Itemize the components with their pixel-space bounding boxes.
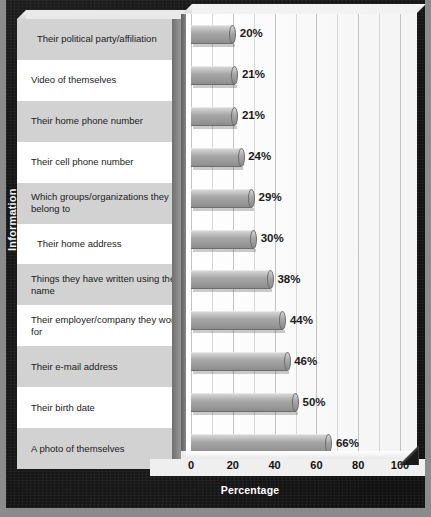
bar-end-cap (325, 434, 332, 451)
bar-chart-figure: Information Their political party/affili… (0, 0, 431, 517)
bar-end-cap (284, 352, 291, 371)
bar-shadow (193, 126, 237, 129)
bar (191, 352, 287, 371)
bar (191, 311, 283, 330)
category-label-text: Their home phone number (31, 115, 143, 127)
x-tick-label: 60 (310, 459, 322, 471)
x-axis-tick-labels: 020406080100 (150, 459, 431, 476)
bar-value-label: 21% (242, 109, 265, 121)
category-label-row: Their e-mail address (17, 346, 189, 387)
bar-end-cap (238, 148, 245, 167)
bar-end-cap (250, 230, 257, 249)
plot-top-face (192, 4, 417, 14)
bar-shadow (193, 249, 256, 252)
category-label-panel: Their political party/affiliationVideo o… (17, 19, 190, 469)
category-label-text: Their cell phone number (31, 156, 133, 168)
category-label-text: Which groups/organizations they belong t… (31, 191, 183, 215)
bar-shadow (193, 44, 235, 47)
category-label-row: Their home phone number (17, 101, 189, 142)
category-label-row: Their political party/affiliation (17, 19, 189, 60)
category-label-row: Which groups/organizations they belong t… (17, 183, 189, 224)
bar-end-cap (231, 107, 238, 126)
bar-value-label: 38% (277, 273, 300, 285)
bar (191, 230, 254, 249)
bottom-margin (0, 508, 431, 517)
x-axis-title: Percentage (110, 484, 390, 496)
corner-fold-inner (402, 449, 418, 465)
category-label-text: A photo of themselves (31, 443, 124, 455)
bar-shadow (193, 289, 272, 292)
bar (191, 25, 233, 44)
bar-end-cap (279, 311, 286, 330)
category-label-text: Their employer/company they work for (31, 314, 183, 338)
category-label-list: Their political party/affiliationVideo o… (17, 19, 189, 469)
bar (191, 189, 252, 208)
bar-shadow (193, 330, 285, 333)
bar (191, 107, 235, 126)
x-tick-label: 80 (352, 459, 364, 471)
bar-value-label: 29% (259, 191, 282, 203)
bar-end-cap (231, 66, 238, 85)
category-label-text: Their home address (31, 238, 121, 250)
bar-shadow (193, 371, 289, 374)
bar-value-label: 21% (242, 68, 265, 80)
category-label-text: Things they have written using their nam… (31, 273, 183, 297)
category-label-row: Their home address (17, 224, 189, 265)
right-margin (425, 0, 431, 517)
category-label-row: Things they have written using their nam… (17, 264, 189, 305)
x-tick-label: 40 (268, 459, 280, 471)
bar-end-cap (229, 25, 236, 44)
bar (191, 434, 329, 451)
x-tick-label: 0 (188, 459, 194, 471)
bar-shadow (193, 167, 243, 170)
plot-area (186, 14, 417, 451)
bar-value-label: 66% (336, 437, 359, 449)
category-label-row: Their birth date (17, 387, 189, 428)
bar-value-label: 44% (290, 314, 313, 326)
bar-value-label: 50% (303, 396, 326, 408)
bar (191, 393, 296, 412)
category-label-text: Their e-mail address (31, 361, 118, 373)
gridline (337, 14, 338, 451)
gridline (400, 14, 401, 451)
label-panel-side-shadow (172, 19, 181, 469)
gridline (296, 14, 297, 451)
bar-value-label: 24% (248, 150, 271, 162)
bar-end-cap (292, 393, 299, 412)
bar-end-cap (248, 189, 255, 208)
bar (191, 66, 235, 85)
category-label-text: Their birth date (31, 402, 95, 414)
gridline (316, 14, 317, 451)
bar-value-label: 46% (294, 355, 317, 367)
gridline (379, 14, 380, 451)
bar-value-label: 30% (261, 232, 284, 244)
category-label-row: Their employer/company they work for (17, 305, 189, 346)
category-label-text: Their political party/affiliation (31, 33, 157, 45)
bar-value-label: 20% (240, 27, 263, 39)
category-label-text: Video of themselves (31, 74, 116, 86)
bar-end-cap (267, 270, 274, 289)
left-margin (0, 0, 6, 517)
bar-shadow (193, 85, 237, 88)
category-label-row: Video of themselves (17, 60, 189, 101)
bar (191, 270, 270, 289)
category-label-row: Their cell phone number (17, 142, 189, 183)
bar-shadow (193, 208, 254, 211)
gridline (358, 14, 359, 451)
bar (191, 148, 241, 167)
bar-shadow (193, 412, 298, 415)
x-tick-label: 20 (227, 459, 239, 471)
label-panel-top-face (26, 10, 189, 19)
